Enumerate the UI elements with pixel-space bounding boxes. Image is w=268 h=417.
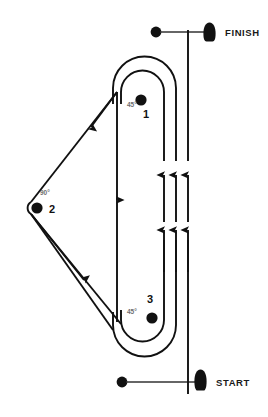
pylon-two-apex-curve — [28, 202, 31, 214]
pylon-dot-icon — [135, 94, 146, 105]
pylon-1-angle-label: 45° — [127, 101, 137, 108]
diagonal-one-to-two — [31, 92, 117, 202]
inner-track-bottom-loop — [121, 240, 164, 342]
diagonal-two-to-three — [31, 214, 121, 324]
diagonal-two-to-three-outer — [31, 214, 113, 330]
finish-gate-label: FINISH — [225, 27, 260, 38]
course-diagram-canvas: FINISH START — [0, 0, 268, 417]
pylon-dot-icon — [31, 202, 42, 213]
start-gate: START — [117, 370, 250, 391]
pylon-2-number: 2 — [49, 203, 55, 215]
course-diagram: FINISH START — [0, 0, 268, 417]
finish-gate: FINISH — [151, 23, 260, 42]
pylon-dot-icon — [146, 312, 157, 323]
start-gate-label: START — [216, 377, 250, 388]
pylon-1-number: 1 — [143, 108, 149, 120]
upper-straight-arrows — [164, 175, 188, 222]
lower-straight-arrows — [164, 230, 188, 272]
pylon-2-marker: 90° 2 — [31, 189, 55, 215]
outer-track-bottom-loop — [113, 240, 176, 357]
pylon-3-number: 3 — [147, 293, 153, 305]
gate-dot-icon — [117, 377, 128, 388]
pylon-3-angle-label: 45° — [127, 308, 137, 315]
pylon-cone-icon — [203, 23, 215, 42]
gate-dot-icon — [151, 27, 162, 38]
pylon-3-marker: 45° 3 — [127, 293, 158, 324]
pylon-2-angle-label: 90° — [40, 189, 50, 196]
pylon-cone-icon — [194, 370, 206, 391]
pylon-1-marker: 45° 1 — [127, 94, 149, 120]
